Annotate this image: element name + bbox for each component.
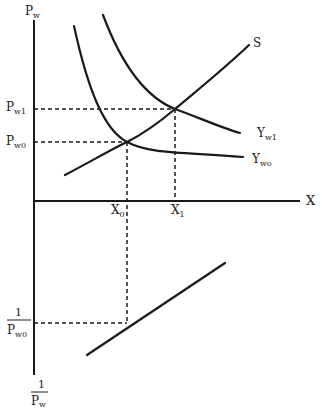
demand-curve-yw1-label: Yw1 xyxy=(256,126,277,142)
x0-label: X0 xyxy=(111,203,125,219)
economics-diagram: Pw X S Yw1 Ywo Pw1 Pw0 X0 X1 1 Pw0 xyxy=(0,0,322,408)
inverse-pw0-label: 1 Pw0 xyxy=(7,306,31,339)
demand-curve-ywo-label: Ywo xyxy=(251,152,272,168)
inverse-price-line xyxy=(87,263,225,355)
supply-curve-label: S xyxy=(253,36,261,50)
svg-text:1: 1 xyxy=(15,306,22,319)
vertical-axis-bottom-label: 1 Pw xyxy=(31,378,48,408)
demand-curve-yw1 xyxy=(103,15,240,133)
svg-text:Pw: Pw xyxy=(31,394,46,408)
x1-label: X1 xyxy=(171,203,185,219)
svg-text:Pw0: Pw0 xyxy=(7,323,27,339)
pw0-label: Pw0 xyxy=(6,134,26,150)
demand-curve-ywo xyxy=(74,26,243,157)
vertical-axis-top-label: Pw xyxy=(25,4,40,20)
pw1-label: Pw1 xyxy=(6,100,26,116)
horizontal-axis-label: X xyxy=(306,193,316,208)
svg-text:1: 1 xyxy=(38,378,45,391)
